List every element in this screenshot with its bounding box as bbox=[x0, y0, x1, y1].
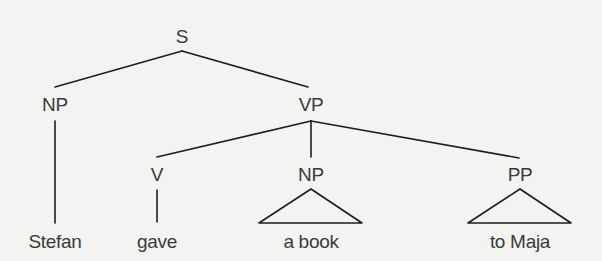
leaf-to-maja: to Maja bbox=[490, 232, 550, 251]
node-s: S bbox=[176, 27, 188, 46]
node-vp: VP bbox=[299, 95, 324, 114]
node-np-subject: NP bbox=[42, 95, 68, 114]
node-v: V bbox=[151, 165, 163, 184]
syntax-tree-diagram bbox=[0, 0, 602, 261]
node-np-object: NP bbox=[298, 165, 324, 184]
leaf-stefan: Stefan bbox=[28, 232, 81, 251]
leaf-gave: gave bbox=[137, 232, 177, 251]
edge-vp-pp bbox=[311, 121, 519, 158]
node-pp: PP bbox=[508, 165, 533, 184]
edge-s-np bbox=[55, 51, 182, 87]
edge-vp-v bbox=[157, 121, 311, 157]
np-object-triangle bbox=[259, 189, 362, 223]
pp-triangle bbox=[468, 189, 571, 223]
leaf-a-book: a book bbox=[283, 232, 338, 251]
edge-s-vp bbox=[182, 51, 308, 87]
